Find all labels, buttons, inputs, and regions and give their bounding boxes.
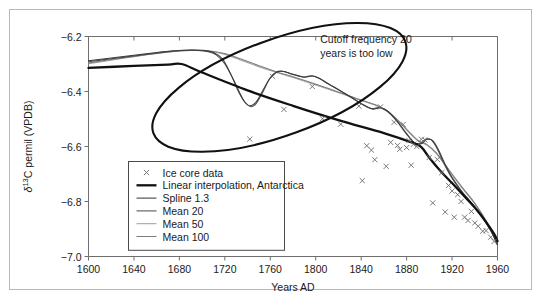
highlight-ellipse (137, 0, 422, 178)
data-point-marker (455, 192, 460, 197)
x-tick-label: 1640 (122, 263, 146, 275)
data-point-marker (488, 235, 493, 240)
legend-item-label: Mean 50 (163, 218, 204, 230)
data-point-marker (310, 84, 315, 89)
data-point-marker (384, 164, 389, 169)
x-tick-label: 1920 (440, 263, 464, 275)
data-point-marker (360, 178, 365, 183)
x-tick-label: 1760 (259, 263, 283, 275)
legend-item-label: Mean 20 (163, 205, 204, 217)
y-tick-label: −6.8 (61, 196, 82, 208)
x-tick-label: 1880 (395, 263, 419, 275)
cutoff-frequency-note-line-1: Cutoff frequency 20 (320, 33, 412, 45)
chart-canvas: 1600164016801720176018001840188019201960… (0, 0, 543, 300)
data-point-marker (469, 209, 474, 214)
data-point-marker (281, 107, 286, 112)
data-point-marker (338, 122, 343, 127)
x-axis-title: Years AD (271, 281, 315, 293)
annotations: Cutoff frequency 20years is too low (137, 0, 422, 178)
x-tick-label: 1840 (349, 263, 373, 275)
x-tick-label: 1720 (213, 263, 237, 275)
data-point-marker (459, 199, 464, 204)
data-point-marker (404, 145, 409, 150)
data-point-marker (392, 120, 397, 125)
data-point-marker (388, 140, 393, 145)
data-point-marker (450, 188, 455, 193)
legend-item-label: Mean 100 (163, 231, 210, 243)
y-axis-title: δ13C permil (VPDB) (21, 101, 35, 193)
data-point-marker (409, 163, 414, 168)
data-point-marker (476, 224, 481, 229)
x-tick-label: 1680 (168, 263, 192, 275)
x-tick-label: 1960 (486, 263, 510, 275)
cutoff-frequency-note-line-2: years is too low (320, 47, 393, 59)
y-axis-title-text: δ13C permil (VPDB) (21, 101, 35, 193)
x-tick-label: 1800 (304, 263, 328, 275)
data-point-marker (465, 218, 470, 223)
legend-item-label: Ice core data (163, 167, 224, 179)
data-point-marker (369, 148, 374, 153)
legend-item-label: Spline 1.3 (163, 192, 210, 204)
data-point-marker (247, 137, 252, 142)
data-point-marker (452, 215, 457, 220)
data-point-marker (443, 209, 448, 214)
figure-root: 1600164016801720176018001840188019201960… (0, 0, 543, 300)
data-point-marker (484, 228, 489, 233)
data-point-marker (364, 143, 369, 148)
y-axis-ticks: −6.2−6.4−6.6−6.8−7.0 (61, 31, 89, 263)
data-point-marker (435, 157, 440, 162)
data-point-marker (372, 157, 377, 162)
y-tick-label: −6.6 (61, 141, 82, 153)
y-tick-label: −7.0 (61, 251, 82, 263)
x-tick-label: 1600 (77, 263, 101, 275)
legend-item-label: Linear interpolation, Antarctica (163, 179, 304, 191)
y-tick-label: −6.4 (61, 86, 82, 98)
data-point-marker (446, 183, 451, 188)
legend: Ice core dataLinear interpolation, Antar… (129, 162, 304, 251)
y-tick-label: −6.2 (61, 31, 82, 43)
data-point-marker (430, 200, 435, 205)
